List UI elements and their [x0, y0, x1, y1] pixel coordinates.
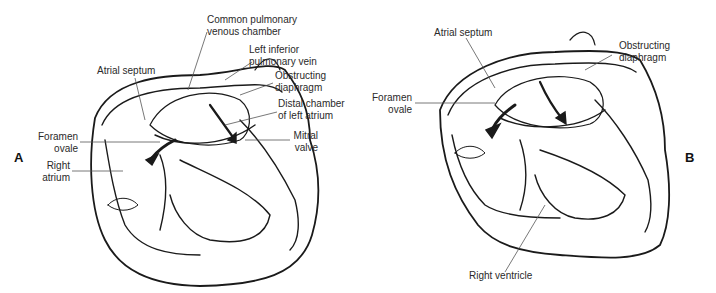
label-foramen-ovale-a: Foramen ovale	[34, 131, 78, 155]
label-foramen-ovale-b: Foramen ovale	[368, 92, 412, 116]
label-obstructing-diaphragm-a: Obstructing diaphragm	[275, 70, 326, 94]
label-right-atrium: Right atrium	[34, 160, 70, 184]
label-mitral-valve: Mitral valve	[288, 130, 318, 154]
panel-label-b: B	[685, 150, 694, 165]
label-common-pulmonary-venous-chamber: Common pulmonary venous chamber	[207, 14, 297, 38]
label-left-inferior-pulmonary-vein: Left inferior pulmonary vein	[249, 44, 317, 68]
heart-diagrams	[0, 0, 716, 293]
label-right-ventricle: Right ventricle	[469, 270, 532, 282]
label-distal-chamber-left-atrium: Distal chamber of left atrium	[278, 98, 345, 122]
heart-b-drawing	[440, 32, 669, 257]
label-atrial-septum-a: Atrial septum	[97, 65, 155, 77]
label-atrial-septum-b: Atrial septum	[434, 27, 492, 39]
label-obstructing-diaphragm-b: Obstructing diaphragm	[619, 40, 670, 64]
panel-label-a: A	[14, 150, 23, 165]
